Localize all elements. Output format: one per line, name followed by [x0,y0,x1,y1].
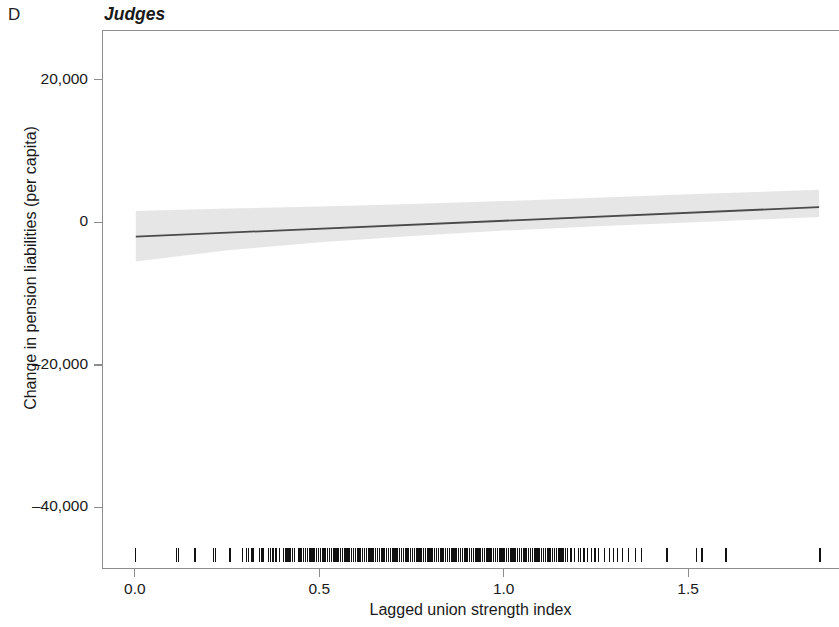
rug-tick [395,548,396,562]
rug-tick [434,548,435,562]
x-tick-label: 1.0 [493,580,515,598]
rug-tick [528,548,529,562]
rug-tick [460,548,461,562]
rug-tick [476,548,477,562]
rug-tick [305,548,306,562]
rug-tick [534,548,535,562]
rug-tick [475,548,476,562]
rug-tick [320,548,321,562]
rug-tick [515,548,516,562]
rug-tick [502,548,503,562]
rug-tick [270,548,271,562]
rug-tick [323,548,324,562]
rug-tick [462,548,463,562]
regression-line [103,31,839,568]
rug-tick [357,548,358,562]
rug-tick [458,548,459,562]
rug-tick [362,548,363,562]
rug-tick [445,548,446,562]
rug-tick [268,548,269,562]
rug-tick [386,548,387,562]
x-axis-line [102,568,839,569]
panel-title: Judges [104,4,165,25]
rug-tick [353,548,354,562]
rug-tick [279,548,280,562]
y-tick-label: 0 [79,212,88,230]
rug-tick [419,548,420,562]
rug-tick [358,548,359,562]
rug-tick [578,548,579,562]
rug-tick [558,548,559,562]
rug-tick [449,548,450,562]
y-tick-label: –20,000 [32,355,88,373]
rug-tick [456,548,457,562]
rug-tick [430,548,431,562]
rug-tick [567,548,568,562]
rug-tick [535,548,536,562]
rug-tick [467,548,468,562]
rug-tick [480,548,481,562]
rug-tick [405,548,406,562]
rug-tick [195,548,196,562]
rug-tick [635,548,636,562]
rug-tick [135,548,136,562]
y-tick-mark [94,79,102,80]
confidence-band-shape [136,190,819,262]
x-tick-label: 1.5 [677,580,699,598]
rug-tick [338,548,339,562]
rug-tick [486,548,487,562]
rug-tick [617,548,618,562]
rug-tick [331,548,332,562]
rug-tick [388,548,389,562]
x-tick-label: 0.0 [124,580,146,598]
x-tick-label: 0.5 [308,580,330,598]
x-axis-label: Lagged union strength index [102,601,839,619]
rug-tick [229,548,230,562]
rug-tick [565,548,566,562]
rug-tick [410,548,411,562]
rug-tick [530,548,531,562]
rug-tick [454,548,455,562]
rug-tick [272,548,273,562]
rug-tick [539,548,540,562]
rug-tick [550,548,551,562]
rug-tick [286,548,287,562]
plot-area [102,30,839,568]
rug-tick [484,548,485,562]
rug-tick [552,548,553,562]
rug-tick [438,548,439,562]
rug-tick [513,548,514,562]
rug-tick [414,548,415,562]
rug-tick [504,548,505,562]
rug-tick [547,548,548,562]
rug-tick [259,548,260,562]
rug-tick [307,548,308,562]
rug-tick [537,548,538,562]
rug-tick [526,548,527,562]
rug-tick [497,548,498,562]
confidence-band [103,31,839,568]
y-tick-label: 20,000 [41,70,88,88]
rug-tick [314,548,315,562]
rug-tick [487,548,488,562]
rug-tick [452,548,453,562]
y-tick-mark [94,222,102,223]
rug-tick [556,548,557,562]
rug-tick [298,548,299,562]
rug-tick [465,548,466,562]
rug-tick [428,548,429,562]
rug-tick [301,548,302,562]
rug-tick [406,548,407,562]
rug-tick [329,548,330,562]
rug-tick [342,548,343,562]
y-tick-mark [94,507,102,508]
rug-tick [292,548,293,562]
rug-tick [377,548,378,562]
rug-tick [360,548,361,562]
rug-tick [701,548,702,562]
rug-tick [570,548,571,562]
rug-tick [604,548,605,562]
rug-tick [288,548,289,562]
rug-tick [511,548,512,562]
rug-tick [451,548,452,562]
